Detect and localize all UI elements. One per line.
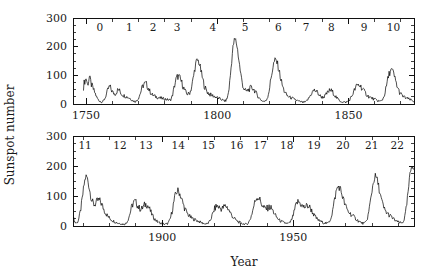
- cycle-number-label: 20: [336, 139, 349, 151]
- cycle-number-label: 2: [150, 21, 157, 33]
- cycle-number-label: 5: [242, 21, 249, 33]
- cycle-number-label: 12: [113, 139, 126, 151]
- cycle-number-label: 4: [209, 21, 216, 33]
- y-tick-label: 100: [46, 69, 67, 82]
- y-tick-label: 200: [46, 160, 67, 173]
- cycle-number-label: 21: [365, 139, 378, 151]
- y-tick-label: 300: [46, 12, 67, 25]
- figure-canvas: Sunspot number Year 01002003001750180018…: [0, 0, 428, 271]
- x-tick-label: 1850: [334, 109, 362, 122]
- cycle-number-label: 15: [202, 139, 215, 151]
- cycle-number-label: 3: [174, 21, 181, 33]
- x-tick-label: 1800: [203, 109, 231, 122]
- cycle-number-label: 9: [361, 21, 368, 33]
- bottom-panel: 0100200300190019501112131415161718192021…: [46, 130, 415, 244]
- y-axis-title: Sunspot number: [3, 84, 17, 185]
- x-tick-label: 1900: [148, 231, 176, 244]
- cycle-number-label: 16: [230, 139, 244, 151]
- cycle-number-label: 18: [280, 139, 293, 151]
- cycle-number-label: 10: [387, 21, 400, 33]
- sunspot-chart-figure: Sunspot number Year 01002003001750180018…: [0, 0, 428, 271]
- sunspot-series-line: [73, 167, 415, 225]
- cycle-number-label: 22: [391, 139, 404, 151]
- y-tick-label: 0: [60, 98, 67, 111]
- cycle-number-label: 14: [171, 139, 185, 151]
- cycle-number-label: 7: [303, 21, 310, 33]
- y-tick-label: 300: [46, 130, 67, 143]
- cycle-number-label: 11: [78, 139, 91, 151]
- cycle-number-label: 8: [328, 21, 335, 33]
- x-tick-label: 1750: [72, 109, 100, 122]
- cycle-number-label: 6: [275, 21, 282, 33]
- cycle-number-label: 13: [139, 139, 152, 151]
- y-tick-label: 0: [60, 220, 67, 233]
- sunspot-series-line: [83, 38, 414, 103]
- top-panel: 0100200300175018001850012345678910: [46, 12, 415, 122]
- y-tick-label: 100: [46, 190, 67, 203]
- cycle-number-label: 1: [126, 21, 133, 33]
- cycle-number-label: 19: [307, 139, 320, 151]
- cycle-number-label: 17: [254, 139, 267, 151]
- y-tick-label: 200: [46, 40, 67, 53]
- x-axis-title: Year: [230, 255, 258, 269]
- cycle-number-label: 0: [96, 21, 103, 33]
- x-tick-label: 1950: [279, 231, 307, 244]
